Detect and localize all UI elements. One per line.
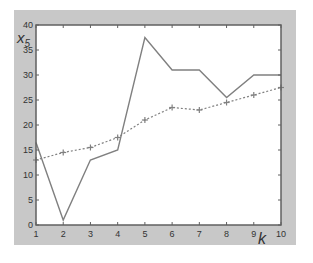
x-tick-label: 2	[61, 229, 66, 239]
y-tick-label: 20	[23, 120, 33, 130]
y-tick-label: 25	[23, 95, 33, 105]
x-tick-label: 10	[276, 229, 286, 239]
line-chart: 123456789100510152025303540 k x5	[0, 0, 313, 263]
x-tick-label: 6	[170, 229, 175, 239]
y-tick-label: 15	[23, 145, 33, 155]
x-tick-label: 7	[197, 229, 202, 239]
y-axis-label-sub: 5	[25, 38, 31, 49]
x-tick-label: 4	[115, 229, 120, 239]
x-tick-label: 1	[33, 229, 38, 239]
plot-area	[36, 25, 281, 225]
x-tick-label: 3	[88, 229, 93, 239]
y-tick-label: 0	[28, 220, 33, 230]
x-axis-label: k	[258, 230, 267, 247]
x-tick-label: 9	[251, 229, 256, 239]
x-tick-label: 8	[224, 229, 229, 239]
x-tick-label: 5	[142, 229, 147, 239]
y-tick-label: 5	[28, 195, 33, 205]
y-tick-label: 10	[23, 170, 33, 180]
y-tick-label: 30	[23, 70, 33, 80]
